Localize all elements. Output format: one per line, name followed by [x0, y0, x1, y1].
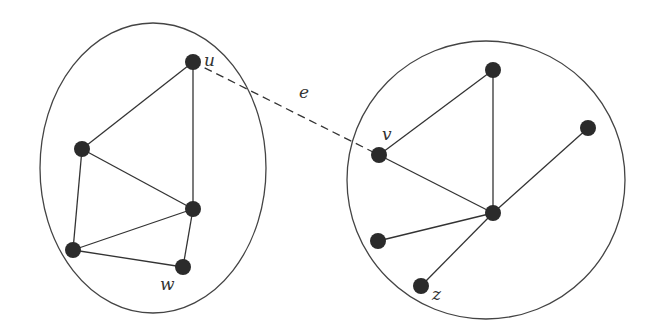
- node-label-u: u: [204, 50, 215, 70]
- node-R1: [485, 62, 501, 78]
- edge-z-R3: [421, 213, 493, 286]
- node-L3: [65, 242, 81, 258]
- component-boundary-right: [347, 41, 625, 319]
- node-v: [371, 147, 387, 163]
- graph-diagram: euwvz: [0, 0, 651, 324]
- edge-L3-w: [73, 250, 183, 267]
- edge-L1-L2: [82, 149, 193, 209]
- component-left: [40, 23, 266, 313]
- edge-u-L1: [82, 62, 193, 149]
- edge-v-R1: [379, 70, 493, 155]
- node-label-v: v: [382, 124, 392, 144]
- edge-R2-R3: [493, 128, 588, 213]
- node-label-z: z: [431, 284, 442, 304]
- node-w: [175, 259, 191, 275]
- bridge-edge-label: e: [299, 82, 309, 102]
- bridge-edge-e: [193, 62, 379, 155]
- edge-L3-L2: [73, 209, 193, 250]
- node-z: [413, 278, 429, 294]
- edge-L1-L3: [73, 149, 82, 250]
- node-R2: [580, 120, 596, 136]
- component-boundary-left: [40, 23, 266, 313]
- node-L2: [185, 201, 201, 217]
- node-label-w: w: [160, 274, 175, 294]
- edge-L2-w: [183, 209, 193, 267]
- node-R4: [370, 233, 386, 249]
- node-u: [185, 54, 201, 70]
- edge-v-R3: [379, 155, 493, 213]
- component-right: [347, 41, 625, 319]
- node-L1: [74, 141, 90, 157]
- edge-R4-R3: [378, 213, 493, 241]
- node-R3: [485, 205, 501, 221]
